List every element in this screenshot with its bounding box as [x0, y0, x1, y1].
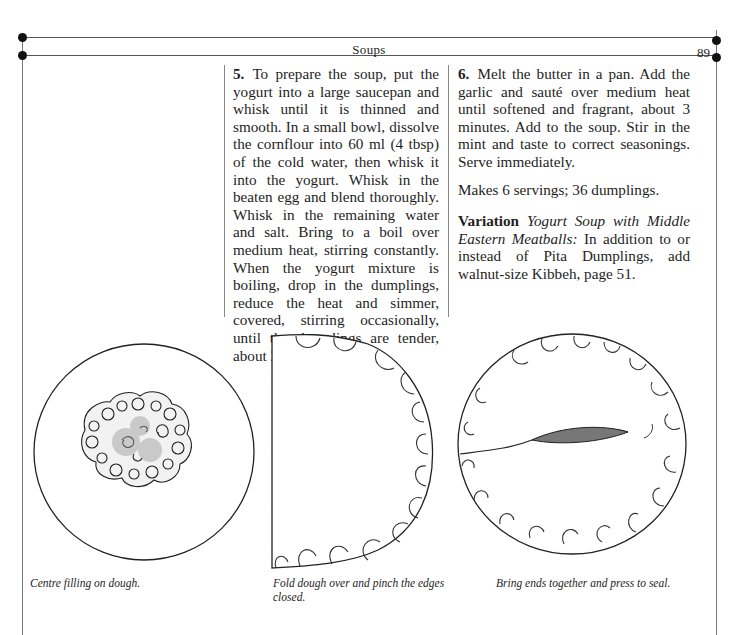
variation-label: Variation: [458, 212, 519, 229]
ornament-dot-icon: [18, 33, 27, 42]
step-6: 6.Melt the butter in a pan. Add the garl…: [458, 65, 690, 171]
column-rule-left: [224, 65, 225, 317]
step-5: 5.To prepare the soup, put the yogurt in…: [233, 65, 439, 364]
step-text: Melt the butter in a pan. Add the garlic…: [458, 65, 690, 170]
left-margin-rule: [22, 37, 23, 635]
folded-dough-illustration: [268, 330, 448, 575]
yield-text: Makes 6 servings; 36 dumplings.: [458, 181, 690, 199]
header-top-rule: [22, 37, 716, 38]
column-rule-middle: [448, 65, 449, 317]
step-number: 5.: [233, 65, 244, 82]
right-margin-rule: [716, 30, 717, 635]
caption-seal: Bring ends together and press to seal.: [496, 576, 676, 590]
caption-filling: Centre filling on dough.: [30, 576, 250, 590]
running-head: Soups: [0, 42, 738, 58]
page-number: 89: [697, 45, 710, 61]
variation: Variation Yogurt Soup with Middle Easter…: [458, 212, 690, 282]
filling-on-dough-illustration: [30, 330, 260, 570]
left-column: 5.To prepare the soup, put the yogurt in…: [233, 65, 439, 374]
step-text: To prepare the soup, put the yogurt into…: [233, 65, 439, 364]
sealed-dumpling-illustration: [452, 322, 692, 567]
step-number: 6.: [458, 65, 469, 82]
caption-fold: Fold dough over and pinch the edges clos…: [273, 576, 473, 604]
right-column: 6.Melt the butter in a pan. Add the garl…: [458, 65, 690, 293]
filling-icon: [82, 392, 192, 487]
